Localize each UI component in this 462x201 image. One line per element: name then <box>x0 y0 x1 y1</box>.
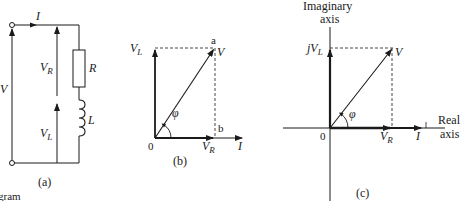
bottom-terminal <box>10 161 15 166</box>
resistor-label: R <box>88 61 97 75</box>
point-b-label: b <box>218 122 224 134</box>
complex-plane-diagram: Imaginary axis jVL V φ Real axis 0 VR I … <box>283 0 461 201</box>
real-axis-label-line1: Real <box>438 113 461 127</box>
vl-label: VL <box>40 126 52 142</box>
vl-label: VL <box>130 41 142 57</box>
origin-label: 0 <box>320 130 326 142</box>
vr-label: VR <box>40 60 53 76</box>
top-terminal <box>10 23 15 28</box>
phi-angle-arc <box>164 125 171 138</box>
current-arrow-icon <box>30 23 37 28</box>
current-label: I <box>415 129 421 143</box>
real-axis-label-line2: axis <box>440 127 460 141</box>
phasor-diagram: VL a V φ b 0 VR I (b) <box>130 34 243 168</box>
vr-label: VR <box>380 129 393 145</box>
caption-b: (b) <box>173 154 187 168</box>
vr-label: VR <box>202 139 215 155</box>
jvl-label: jVL <box>305 41 323 57</box>
circuit-diagram: I V VR VL R L (a) gram <box>0 9 97 201</box>
origin-label: 0 <box>148 140 154 152</box>
phi-angle-arc <box>341 114 348 128</box>
resistor <box>73 50 85 87</box>
inductor-label: L <box>87 113 95 127</box>
point-a-label: a <box>211 34 216 46</box>
caption-a: (a) <box>38 175 51 189</box>
v-label: V <box>217 45 226 59</box>
v-label: V <box>395 45 404 59</box>
source-voltage-label: V <box>0 82 9 96</box>
caption-c: (c) <box>356 186 369 200</box>
current-label: I <box>237 139 243 153</box>
phi-label: φ <box>349 107 356 121</box>
phi-label: φ <box>172 106 179 120</box>
current-label: I <box>35 9 41 23</box>
truncated-caption-text: gram <box>0 190 21 201</box>
inductor-coil <box>79 100 85 136</box>
v-phasor <box>330 50 392 129</box>
imaginary-axis-label-line2: axis <box>320 12 340 26</box>
